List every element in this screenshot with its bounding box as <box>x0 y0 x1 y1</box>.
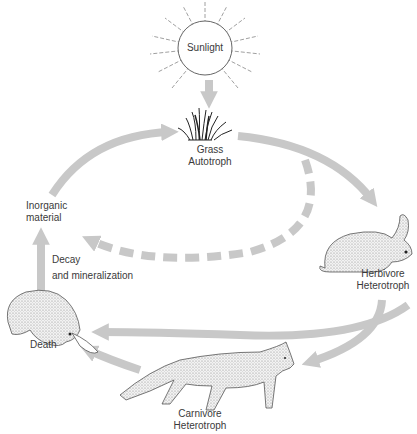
grass-icon <box>178 108 232 140</box>
fox-icon <box>120 342 294 410</box>
sunlight-label: Sunlight <box>178 42 232 54</box>
arrow-decay-dashed <box>90 160 311 258</box>
carnivore-name: Carnivore <box>160 408 240 420</box>
herbivore-label: Herbivore Heterotroph <box>350 268 416 292</box>
inorganic-material-label: Inorganic material <box>26 200 67 224</box>
inorganic-line1: Inorganic <box>26 200 67 212</box>
inorganic-line2: material <box>26 212 67 224</box>
rabbit-icon <box>320 215 412 272</box>
grass-label: Grass Autotroph <box>180 144 240 168</box>
carnivore-label: Carnivore Heterotroph <box>160 408 240 432</box>
decay-line1: Decay <box>52 252 133 268</box>
decay-line2: and mineralization <box>52 268 133 284</box>
arrow-inorganic-to-grass <box>52 132 170 195</box>
carnivore-role: Heterotroph <box>160 420 240 432</box>
death-label: Death <box>30 339 57 351</box>
grass-role: Autotroph <box>180 156 240 168</box>
grass-name: Grass <box>180 144 240 156</box>
decay-label: Decay and mineralization <box>52 252 133 284</box>
herbivore-role: Heterotroph <box>350 280 416 292</box>
herbivore-name: Herbivore <box>350 268 416 280</box>
arrow-herbivore-to-death <box>100 305 408 336</box>
